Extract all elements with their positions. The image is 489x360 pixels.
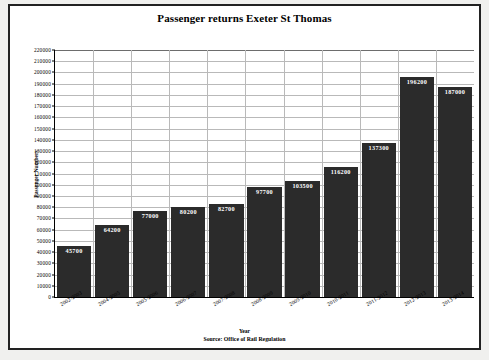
y-tick-label: 70000: [37, 215, 51, 221]
y-tick-label: 200000: [34, 69, 51, 75]
bar-slot: 187000: [436, 50, 474, 297]
y-tick-label: 160000: [34, 114, 51, 120]
y-tick-label: 210000: [34, 58, 51, 64]
y-tick-label: 90000: [37, 193, 51, 199]
bar-slot: 80200: [169, 50, 207, 297]
bar-value-label: 64200: [95, 226, 129, 233]
bar-slot: 64200: [93, 50, 131, 297]
bar[interactable]: 77000: [133, 211, 167, 297]
bar-value-label: 137300: [362, 144, 396, 151]
y-tick-label: 130000: [34, 148, 51, 154]
chart-title: Passenger returns Exeter St Thomas: [10, 12, 479, 24]
bar-slot: 196200: [398, 50, 436, 297]
bar[interactable]: 116200: [324, 167, 358, 297]
y-tick-label: 20000: [37, 272, 51, 278]
y-tick-label: 220000: [34, 47, 51, 53]
bar-value-label: 196200: [400, 78, 434, 85]
bar-value-label: 80200: [171, 208, 205, 215]
bar-slot: 137300: [360, 50, 398, 297]
x-axis-title: Year: [10, 328, 479, 334]
source-note: Source: Office of Rail Regulation: [10, 336, 479, 342]
bar-value-label: 97700: [247, 188, 281, 195]
bar-value-label: 116200: [324, 168, 358, 175]
plot-wrap: 0100002000030000400005000060000700008000…: [54, 50, 474, 298]
bar-slot: 82700: [207, 50, 245, 297]
chart-frame: Passenger returns Exeter St Thomas Passe…: [8, 4, 481, 350]
bar-slot: 77000: [131, 50, 169, 297]
bar[interactable]: 187000: [438, 87, 472, 297]
y-tick-label: 190000: [34, 81, 51, 87]
bar-value-label: 187000: [438, 88, 472, 95]
bar-slot: 45700: [55, 50, 93, 297]
bar-value-label: 45700: [57, 247, 91, 254]
bar[interactable]: 103500: [285, 181, 319, 297]
y-tick-label: 120000: [34, 159, 51, 165]
bar-slot: 116200: [322, 50, 360, 297]
y-tick-label: 140000: [34, 137, 51, 143]
y-tick-label: 150000: [34, 126, 51, 132]
bar-series: 4570064200770008020082700977001035001162…: [55, 50, 474, 297]
y-tick-label: 110000: [34, 171, 51, 177]
bar[interactable]: 82700: [209, 204, 243, 297]
y-tick-label: 40000: [37, 249, 51, 255]
bar[interactable]: 45700: [57, 246, 91, 297]
y-tick-label: 100000: [34, 182, 51, 188]
y-tick-label: 0: [48, 294, 51, 300]
y-tick-label: 170000: [34, 103, 51, 109]
bar-value-label: 82700: [209, 205, 243, 212]
bar[interactable]: 64200: [95, 225, 129, 297]
y-tick-label: 10000: [37, 283, 51, 289]
plot-area: 0100002000030000400005000060000700008000…: [54, 50, 474, 298]
y-tick-label: 50000: [37, 238, 51, 244]
y-tick-label: 80000: [37, 204, 51, 210]
bar[interactable]: 97700: [247, 187, 281, 297]
bar[interactable]: 196200: [400, 77, 434, 297]
y-tick-label: 180000: [34, 92, 51, 98]
bar-value-label: 77000: [133, 212, 167, 219]
bar[interactable]: 137300: [362, 143, 396, 297]
bar-value-label: 103500: [285, 182, 319, 189]
y-tick-label: 60000: [37, 227, 51, 233]
bar-slot: 97700: [245, 50, 283, 297]
bar-slot: 103500: [284, 50, 322, 297]
bar[interactable]: 80200: [171, 207, 205, 297]
y-tick-label: 30000: [37, 260, 51, 266]
